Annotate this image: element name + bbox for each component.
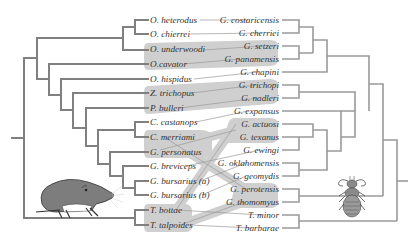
host-label: T. bottae [150,205,182,215]
host-labels: O. heterodus O. chierrei O. underwoodi O… [149,15,209,230]
parasite-label: G. expansus [234,106,279,116]
gopher-icon [36,179,124,218]
parasite-label: G. nadleri [241,93,279,103]
parasite-label: G. geomydis [233,171,279,181]
host-label: O. chierrei [150,29,190,39]
host-label: C. castanops [150,117,198,127]
host-label: O.cavator [150,59,187,69]
host-label: Z. trichopus [150,88,195,98]
host-label: G. bursarius (b) [150,190,209,200]
parasite-label: G. thomomyus [226,197,280,207]
parasite-label: G. actuosi [241,119,279,129]
parasite-label: T. minor [248,210,279,220]
parasite-label: G. ewingi [243,145,279,155]
parasite-label: G. setzeri [244,41,280,51]
parasite-label: G. oklahomensis [218,158,280,168]
parasite-label: G. panamensis [224,54,279,64]
host-label: G. breviceps [150,161,197,171]
parasite-label: G. perotensis [230,184,279,194]
host-label: G. bursarius (a) [150,176,209,186]
host-label: O. heterodus [150,15,198,25]
parasite-label: G. cherriei [239,28,280,38]
parasite-label: G. costaricensis [220,15,280,25]
host-label: G. personatus [150,147,202,157]
parasite-label: G. chapini [240,67,279,77]
host-label: O. hispidus [150,74,192,84]
parasite-label: G. texanus [240,132,280,142]
parasite-label: T. barbarae [236,223,279,233]
host-label: P. bulleri [149,103,184,113]
host-label: T. talpoides [150,220,193,230]
tanglegram-diagram: O. heterodus O. chierrei O. underwoodi O… [0,0,418,243]
host-label: O. underwoodi [150,44,206,54]
host-label: C. merriami [150,132,195,142]
parasite-tree [282,20,408,228]
parasite-label: G. trichopi [239,80,280,90]
